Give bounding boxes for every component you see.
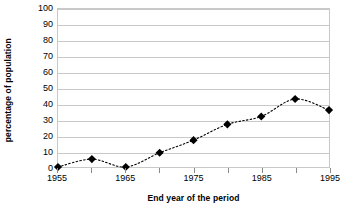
x-tick-label: 1985 <box>252 174 272 183</box>
data-series <box>58 9 329 167</box>
y-axis-title-text: percentage of population <box>4 38 13 142</box>
y-tick-label: 100 <box>38 4 53 13</box>
data-point-marker <box>325 106 333 114</box>
x-tick-label: 1995 <box>320 174 340 183</box>
x-tick-label: 1965 <box>115 174 135 183</box>
y-tick-label: 40 <box>43 100 53 109</box>
y-tick-label: 50 <box>43 84 53 93</box>
data-point-marker <box>223 120 231 128</box>
data-point-marker <box>189 136 197 144</box>
x-tick-mark <box>91 168 92 173</box>
x-tick-label: 1955 <box>47 174 67 183</box>
y-tick-label: 0 <box>48 164 53 173</box>
y-tick-label: 90 <box>43 20 53 29</box>
data-point-marker <box>257 112 265 120</box>
y-tick-label: 70 <box>43 52 53 61</box>
data-point-marker <box>156 149 164 157</box>
x-axis-title: End year of the period <box>57 194 330 203</box>
x-tick-mark <box>159 168 160 173</box>
y-axis-tick-labels: 1009080706050403020100 <box>18 8 56 168</box>
y-tick-label: 60 <box>43 68 53 77</box>
y-tick-label: 10 <box>43 148 53 157</box>
x-axis-tick-labels: 19551965197519851995 <box>57 174 330 188</box>
plot-area <box>57 8 330 168</box>
y-tick-label: 30 <box>43 116 53 125</box>
chart-figure: percentage of population 100908070605040… <box>0 0 343 217</box>
x-tick-mark <box>296 168 297 173</box>
x-tick-label: 1975 <box>183 174 203 183</box>
series-line <box>58 99 329 167</box>
y-tick-label: 80 <box>43 36 53 45</box>
data-point-marker <box>88 155 96 163</box>
data-point-marker <box>291 95 299 103</box>
y-tick-label: 20 <box>43 132 53 141</box>
x-tick-mark <box>228 168 229 173</box>
y-axis-title: percentage of population <box>0 0 16 180</box>
